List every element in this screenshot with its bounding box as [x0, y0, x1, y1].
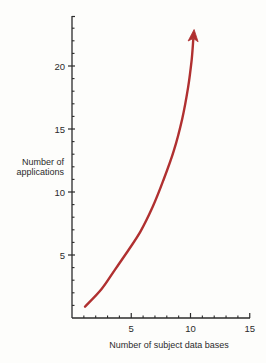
ticks: [68, 28, 250, 318]
x-tick-label: 10: [185, 323, 196, 334]
y-tick-label: 20: [54, 61, 65, 72]
y-tick-label: 10: [54, 187, 65, 198]
x-tick-label: 15: [244, 323, 255, 334]
x-axis-title: Number of subject data bases: [109, 340, 229, 350]
y-tick-label: 5: [60, 250, 65, 261]
x-tick-label: 5: [129, 323, 134, 334]
axes: 510155102015: [54, 16, 255, 334]
tick-labels: 510155102015: [54, 61, 255, 335]
y-axis-title-line2: applications: [16, 167, 64, 177]
y-axis-title-line1: Number of: [22, 157, 65, 167]
growth-curve: [85, 39, 193, 306]
chart-canvas: 510155102015 Number of applications Numb…: [0, 0, 266, 363]
y-tick-label: 15: [54, 124, 65, 135]
data-series: [85, 30, 198, 307]
